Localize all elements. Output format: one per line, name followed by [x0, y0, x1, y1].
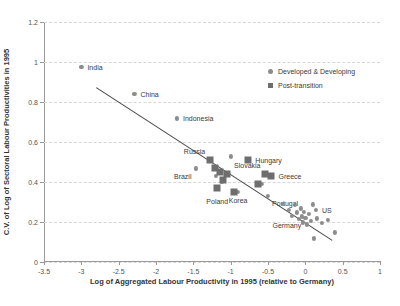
- data-point-label: Greece: [278, 172, 301, 179]
- square-marker-icon: [268, 83, 273, 88]
- data-point-label: Russia: [184, 148, 205, 155]
- x-tick-label: -3: [78, 268, 84, 275]
- y-tick-label: 1: [34, 59, 38, 66]
- x-tick-label: -2: [153, 268, 159, 275]
- y-tick-label: 0.4: [28, 179, 38, 186]
- chart-legend: Developed & DevelopingPost-transition: [268, 68, 355, 96]
- data-point-label: Slovakia: [234, 162, 260, 169]
- y-tick-label: 0.2: [28, 219, 38, 226]
- data-point-label: India: [87, 64, 102, 71]
- data-point-label: Germany: [272, 221, 301, 228]
- legend-item[interactable]: Post-transition: [268, 82, 355, 89]
- legend-item[interactable]: Developed & Developing: [268, 68, 355, 75]
- x-tick: [380, 261, 381, 265]
- data-point: [214, 184, 221, 191]
- data-point: [206, 156, 213, 163]
- data-point-label: Poland: [206, 197, 228, 204]
- data-point: [267, 172, 274, 179]
- x-tick-label: 0.5: [338, 268, 348, 275]
- trend-line: [44, 22, 380, 262]
- x-tick-label: -0.5: [262, 268, 274, 275]
- data-point-label: US: [322, 206, 332, 213]
- scatter-chart: 00.20.40.60.811.2 -3.5-3-2.5-2-1.5-1-0.5…: [0, 0, 400, 306]
- legend-label: Developed & Developing: [278, 68, 355, 75]
- x-tick-label: -1.5: [187, 268, 199, 275]
- y-tick-label: 0.6: [28, 139, 38, 146]
- data-point-label: Indonesia: [183, 115, 213, 122]
- gridline: [44, 262, 380, 263]
- data-point: [230, 189, 237, 196]
- legend-label: Post-transition: [278, 82, 323, 89]
- y-tick-label: 0.8: [28, 99, 38, 106]
- y-tick-label: 0: [34, 259, 38, 266]
- x-tick-label: 0: [303, 268, 307, 275]
- y-axis-title: C.V. of Log of Sectoral Labour Productiv…: [2, 22, 14, 262]
- plot-area: 00.20.40.60.811.2 -3.5-3-2.5-2-1.5-1-0.5…: [44, 22, 380, 262]
- x-tick-label: -1: [228, 268, 234, 275]
- data-point-label: Brazil: [174, 172, 192, 179]
- data-point: [220, 177, 227, 184]
- data-point-label: China: [140, 90, 158, 97]
- x-axis-title: Log of Aggregated Labour Productivity in…: [44, 277, 380, 286]
- data-point-label: Korea: [229, 196, 248, 203]
- circle-marker-icon: [268, 69, 273, 74]
- data-point: [254, 181, 261, 188]
- x-tick-label: -2.5: [113, 268, 125, 275]
- x-tick-label: 1: [378, 268, 382, 275]
- y-tick-label: 1.2: [28, 19, 38, 26]
- x-tick-label: -3.5: [38, 268, 50, 275]
